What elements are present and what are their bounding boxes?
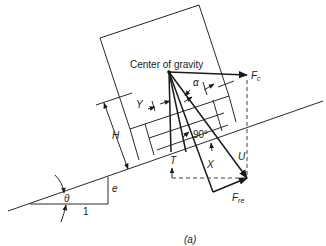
theta-arrow-bottom-icon [61,205,66,222]
alpha-label: α [193,77,199,88]
figure-caption: (a) [184,234,196,245]
t-line [169,72,171,152]
theta-arrow-top-icon [55,175,64,193]
fre-arrow [213,178,247,192]
vehicle-on-slope-diagram: Center of gravity Fc α Y H 90° T X U Fre… [0,0,326,246]
fc-arrow [169,72,247,75]
u-label: U [238,151,246,162]
angle-90-label: 90° [193,129,208,140]
angle-90-arrow-icon [183,132,189,137]
angle-90-arrow-lower-icon [211,143,212,151]
fre-label: Fre [232,192,244,204]
e-label: e [112,183,118,194]
fc-label: Fc [251,70,261,82]
theta-label: θ [64,193,70,204]
y-dimension [148,101,170,111]
cg-label: Center of gravity [130,59,203,70]
t-label: T [170,155,177,166]
x-label: X [206,159,214,170]
one-label: 1 [83,206,89,217]
h-label: H [112,130,120,141]
y-label: Y [136,99,144,110]
